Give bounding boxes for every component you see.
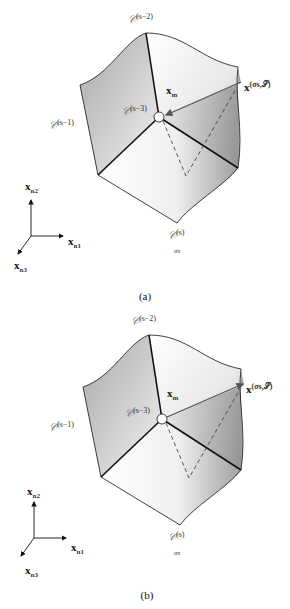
label-c-s2: 𝒞(s−2)	[131, 316, 156, 327]
axis-n3	[21, 538, 34, 556]
label-x-sigma: x(σs,𝒮)	[246, 384, 272, 395]
label-c-s1: 𝒞(s−1)	[49, 422, 74, 433]
label-x-m: xm	[167, 388, 178, 399]
label-axis-n1: xn1	[71, 542, 84, 553]
panel-a: 𝒞(s−2) 𝒞(s−1) 𝒞(s−3) 𝒞(s) σs xm x(σs,𝒮) …	[0, 0, 290, 304]
caption-b: (b)	[127, 589, 167, 601]
panel-b: 𝒞(s−2) 𝒞(s−1) 𝒞(s−3) 𝒞(s) σs xm x(σs,𝒮) …	[3, 302, 290, 606]
center-node	[157, 414, 167, 424]
label-axis-n2: xn2	[27, 486, 40, 497]
label-axis-n1: xn1	[68, 236, 81, 247]
label-axis-n2: xn2	[25, 181, 38, 192]
label-axis-n3: xn3	[25, 565, 38, 576]
surface-diagram-a	[0, 0, 290, 304]
surface-diagram-b	[3, 302, 290, 606]
label-c-sigma: 𝒞(s) σs	[168, 532, 184, 554]
label-c-s3: 𝒞(s−3)	[122, 106, 147, 117]
center-node	[154, 112, 164, 122]
caption-a: (a)	[125, 290, 165, 302]
label-c-sigma: 𝒞(s) σs	[168, 230, 184, 252]
label-c-s1: 𝒞(s−1)	[49, 120, 74, 131]
axis-n3	[18, 236, 31, 254]
label-c-s3: 𝒞(s−3)	[125, 408, 150, 419]
label-x-m: xm	[166, 85, 177, 96]
label-c-s2: 𝒞(s−2)	[128, 14, 153, 25]
label-axis-n3: xn3	[14, 260, 27, 271]
label-x-sigma: x(σs,𝒮)	[244, 82, 270, 93]
